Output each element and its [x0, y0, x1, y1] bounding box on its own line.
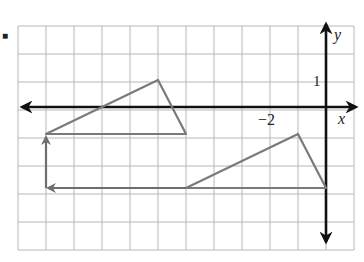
x-axis-label: x [337, 110, 345, 127]
y-axis-label: y [332, 26, 342, 44]
y-tick-label-1: 1 [313, 73, 321, 89]
preimage-triangle [186, 134, 326, 188]
coordinate-plane: ■ y x 1 −2 [0, 0, 364, 262]
grid-lines [18, 26, 354, 250]
x-tick-label-neg2: −2 [258, 111, 275, 128]
bullet-marker: ■ [2, 30, 8, 41]
